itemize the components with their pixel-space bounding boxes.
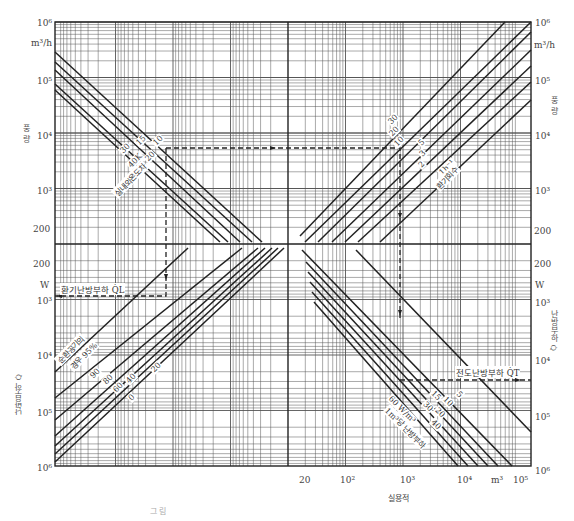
right-load-title: 난방부하 Q̇ [548,310,559,351]
left-tick-1e3: 10³ [37,186,52,196]
right-tick-load-1e5: 10⁵ [535,412,550,422]
bottom-tick-20: 20 [299,475,310,485]
left-flow-title: 풍 량 [20,124,31,143]
bottom-tick-1e3: 10³ [400,475,415,485]
left-tick-1e5: 10⁵ [37,76,52,86]
nomogram-chart [0,0,574,521]
bottom-tick-1e5: 10⁵ [513,475,528,485]
right-tick-load-1e4: 10⁴ [535,356,550,366]
right-flow-title: 풍 량 [548,96,559,115]
right-tick-1e4: 10⁴ [535,131,550,141]
left-load-title: 난방부하 Q̇ [13,374,24,415]
left-unit-w: W [40,280,49,290]
right-tick-1e3: 10³ [535,186,550,196]
left-tick-load-1e5: 10⁵ [37,408,52,418]
right-tick-200a: 200 [534,226,551,236]
bottom-tick-1e4: 10⁴ [457,475,472,485]
bottom-tick-1e2: 10² [340,475,355,485]
left-tick-load-1e6: 10⁶ [37,463,52,473]
left-tick-load-1e4: 10⁴ [37,351,52,361]
left-tick-200a: 200 [33,224,50,234]
figure-caption: 그림 [150,505,168,516]
left-unit-flow: m³/h [31,38,52,48]
left-tick-200b: 200 [33,259,50,269]
right-unit-flow: m³/h [534,40,555,50]
ventilation-load-label: 환기난방부하 Q̇L [60,283,125,295]
right-tick-1e6-top: 10⁶ [535,18,550,28]
left-tick-1e4: 10⁴ [37,131,52,141]
bottom-unit-m3: m³ [491,475,503,485]
left-tick-1e6-top: 10⁶ [37,18,52,28]
right-tick-1e5: 10⁵ [535,76,550,86]
left-tick-load-1e3: 10³ [37,296,52,306]
right-unit-w: W [535,280,544,290]
right-tick-200b: 200 [534,259,551,269]
x-axis-title: 실용적 [388,492,409,503]
right-tick-load-1e6: 10⁶ [535,466,550,476]
right-tick-load-1e3: 10³ [535,298,550,308]
conduction-load-label: 전도난방부하 Q̇T [455,366,520,378]
